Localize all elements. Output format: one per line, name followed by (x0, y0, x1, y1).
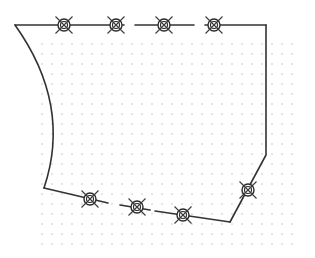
ceiling-light-x-icon[interactable] (206, 17, 223, 34)
ceiling-light-x-icon[interactable] (129, 199, 146, 216)
ceiling-light-x-icon[interactable] (156, 17, 173, 34)
ceiling-light-x-icon[interactable] (108, 17, 125, 34)
ceiling-light-x-icon[interactable] (56, 17, 73, 34)
floor-plan-canvas (0, 0, 315, 258)
dot-grid (41, 43, 292, 244)
bottom-wall-segment-3 (44, 188, 108, 203)
curved-left-wall (15, 25, 53, 188)
ceiling-light-x-icon[interactable] (240, 182, 257, 199)
ceiling-light-x-icon[interactable] (82, 191, 99, 208)
light-fixtures (56, 17, 257, 224)
room-walls (15, 25, 266, 222)
bottom-wall-segment-1 (155, 211, 230, 222)
ceiling-light-x-icon[interactable] (175, 207, 192, 224)
